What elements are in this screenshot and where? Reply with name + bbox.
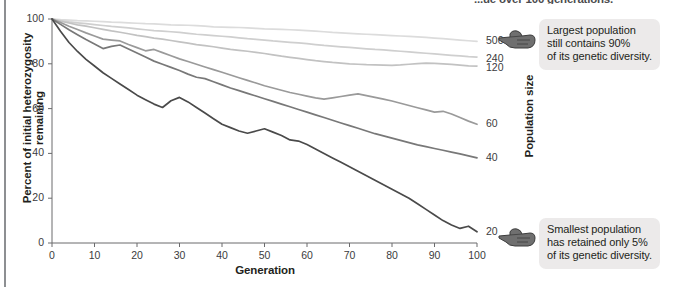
series-line-60	[52, 19, 477, 124]
callout-line: Smallest population	[547, 223, 652, 236]
pointing-hand-icon	[497, 225, 537, 249]
largest-population-callout: Largest population still contains 90% of…	[539, 19, 660, 70]
callout-line: of its genetic diversity.	[547, 249, 652, 262]
figure-container: ...ue over 100 generations. Percent of i…	[0, 0, 679, 287]
data-lines	[52, 19, 477, 232]
series-line-240	[52, 19, 477, 57]
smallest-population-callout: Smallest population has retained only 5%…	[539, 218, 660, 269]
callout-line: still contains 90%	[547, 37, 652, 50]
callout-line: Largest population	[547, 24, 652, 37]
series-line-500	[52, 19, 477, 41]
callout-line: has retained only 5%	[547, 236, 652, 249]
series-line-20	[52, 19, 477, 232]
pointing-hand-icon	[497, 27, 537, 51]
callout-line: of its genetic diversity.	[547, 50, 652, 63]
